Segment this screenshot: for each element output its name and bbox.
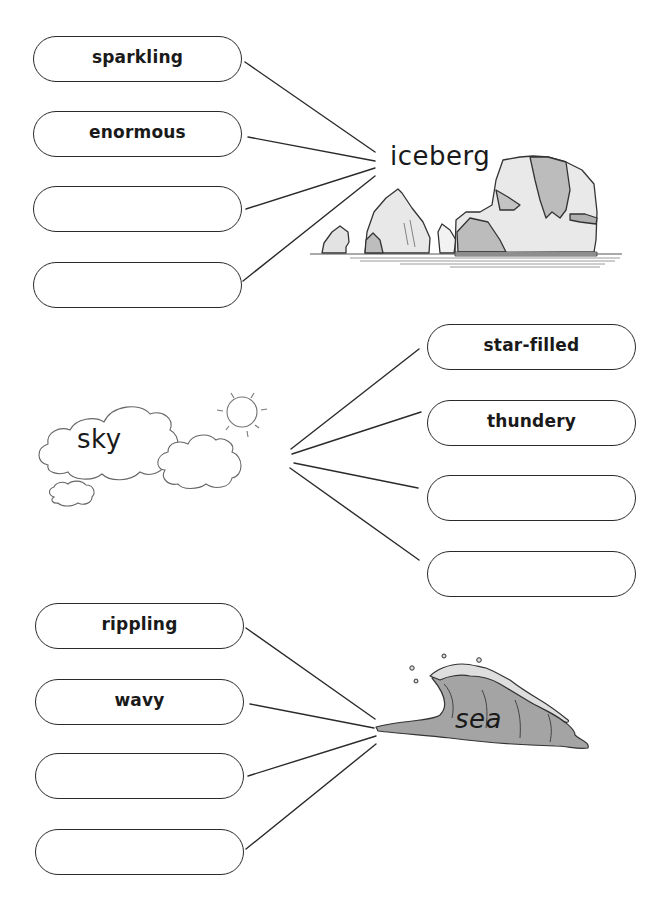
noun-label-sea: sea [455, 704, 502, 734]
sea-adjective-box-1[interactable]: rippling [35, 603, 244, 649]
noun-label-sky: sky [77, 424, 122, 454]
sea-adjective-box-4-blank[interactable] [35, 829, 244, 875]
adjective-text: star-filled [484, 335, 580, 355]
adjective-text: enormous [89, 122, 186, 142]
adjective-text: sparkling [92, 47, 183, 67]
sea-adjective-box-2[interactable]: wavy [35, 679, 244, 725]
sky-adjective-box-1[interactable]: star-filled [427, 324, 636, 370]
sky-adjective-box-3-blank[interactable] [427, 475, 636, 521]
adjective-text: rippling [101, 614, 177, 634]
sky-adjective-box-2[interactable]: thundery [427, 400, 636, 446]
iceberg-adjective-box-3-blank[interactable] [33, 186, 242, 232]
adjective-text: thundery [487, 411, 576, 431]
iceberg-adjective-box-1[interactable]: sparkling [33, 36, 242, 82]
noun-label-iceberg: iceberg [390, 141, 490, 171]
iceberg-adjective-box-4-blank[interactable] [33, 262, 242, 308]
sky-adjective-box-4-blank[interactable] [427, 551, 636, 597]
worksheet-canvas: iceberg sky sea sparkling enormous star-… [0, 0, 667, 906]
sea-adjective-box-3-blank[interactable] [35, 753, 244, 799]
iceberg-adjective-box-2[interactable]: enormous [33, 111, 242, 157]
adjective-text: wavy [114, 690, 164, 710]
